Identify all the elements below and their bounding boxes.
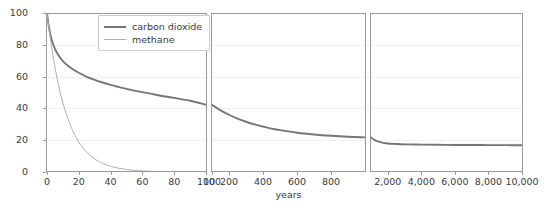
- x-tick-label: 4,000: [408, 176, 435, 187]
- x-tick-mark: [297, 172, 298, 175]
- x-tick-mark: [47, 172, 48, 175]
- y-tick-label: 40: [4, 103, 28, 113]
- x-tick-label: 2,000: [374, 176, 401, 187]
- y-tick-label: 100: [4, 8, 28, 18]
- y-tick-mark: [43, 172, 46, 173]
- series-line-carbon-dioxide: [371, 137, 522, 145]
- x-tick-label: 800: [322, 176, 340, 187]
- x-tick-mark: [263, 172, 264, 175]
- x-tick-mark: [111, 172, 112, 175]
- x-tick-mark: [388, 172, 389, 175]
- legend-label: methane: [132, 33, 175, 46]
- plot-panel-mid-term: [211, 13, 366, 172]
- x-tick-label: 10,000: [505, 176, 538, 187]
- x-tick-mark: [421, 172, 422, 175]
- y-tick-label: 0: [4, 167, 28, 177]
- legend-item-methane: methane: [104, 33, 202, 46]
- x-tick-label: 100: [203, 176, 221, 187]
- series-line-carbon-dioxide: [212, 105, 365, 138]
- x-tick-label: 200: [220, 176, 238, 187]
- y-tick-label: 20: [4, 135, 28, 145]
- x-tick-mark: [229, 172, 230, 175]
- x-tick-label: 60: [136, 176, 148, 187]
- series-layer: [212, 14, 365, 171]
- chart-legend: carbon dioxidemethane: [98, 15, 210, 51]
- chart-figure: percent remaining 020406080100 020406080…: [0, 0, 554, 210]
- x-axis-label: years: [211, 189, 366, 200]
- x-tick-label: 400: [254, 176, 272, 187]
- x-tick-label: 40: [105, 176, 117, 187]
- x-tick-mark: [142, 172, 143, 175]
- series-layer: [371, 14, 522, 171]
- x-tick-label: 0: [44, 176, 50, 187]
- legend-swatch-icon: [104, 26, 126, 28]
- x-tick-label: 8,000: [475, 176, 502, 187]
- legend-swatch-icon: [104, 39, 126, 40]
- x-tick-label: 20: [73, 176, 85, 187]
- legend-item-carbon-dioxide: carbon dioxide: [104, 20, 202, 33]
- x-tick-mark: [206, 172, 207, 175]
- x-tick-mark: [522, 172, 523, 175]
- x-tick-mark: [212, 172, 213, 175]
- x-tick-mark: [455, 172, 456, 175]
- x-tick-mark: [331, 172, 332, 175]
- legend-label: carbon dioxide: [132, 20, 202, 33]
- plot-panel-long-term: [370, 13, 523, 172]
- x-tick-mark: [488, 172, 489, 175]
- x-tick-label: 600: [288, 176, 306, 187]
- x-tick-mark: [79, 172, 80, 175]
- x-tick-label: 6,000: [441, 176, 468, 187]
- x-tick-label: 80: [168, 176, 180, 187]
- x-tick-mark: [174, 172, 175, 175]
- y-tick-label: 60: [4, 72, 28, 82]
- y-tick-label: 80: [4, 40, 28, 50]
